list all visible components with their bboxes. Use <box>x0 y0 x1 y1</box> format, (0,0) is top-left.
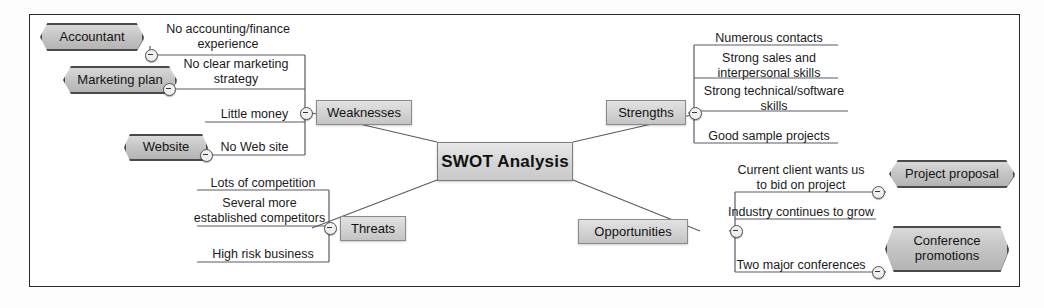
central-node-label: SWOT Analysis <box>441 152 569 172</box>
branch-weaknesses-label: Weaknesses <box>327 105 401 120</box>
collapse-minus-icon-marketing-plan[interactable] <box>163 83 176 96</box>
leaf-opportunity-1[interactable]: Current client wants us to bid on projec… <box>726 163 876 193</box>
branch-opportunities[interactable]: Opportunities <box>578 219 688 244</box>
callout-conference-promotions[interactable]: Conference promotions <box>885 226 1009 272</box>
branch-opportunities-label: Opportunities <box>594 224 671 239</box>
branch-weaknesses[interactable]: Weaknesses <box>316 100 412 125</box>
callout-project-proposal-label: Project proposal <box>905 167 999 182</box>
leaf-opportunity-2[interactable]: Industry continues to grow <box>726 205 876 220</box>
branch-threats-label: Threats <box>351 221 395 236</box>
leaf-threat-3[interactable]: High risk business <box>197 247 329 262</box>
callout-conference-promotions-wrap: Conference promotions <box>885 226 1005 268</box>
collapse-minus-icon-strengths[interactable] <box>689 107 702 120</box>
mindmap-canvas: SWOT Analysis Weaknesses Strengths Threa… <box>0 0 1044 308</box>
leaf-threat-2[interactable]: Several more established competitors <box>190 196 329 226</box>
collapse-minus-icon-opportunities[interactable] <box>730 225 743 238</box>
callout-website[interactable]: Website <box>124 134 208 161</box>
callout-project-proposal[interactable]: Project proposal <box>889 160 1015 188</box>
branch-strengths[interactable]: Strengths <box>606 100 686 125</box>
leaf-threat-1[interactable]: Lots of competition <box>197 176 329 191</box>
collapse-minus-icon-project-proposal[interactable] <box>872 186 885 199</box>
branch-threats[interactable]: Threats <box>340 216 406 241</box>
collapse-minus-icon-threats[interactable] <box>324 222 337 235</box>
leaf-weakness-2[interactable]: No clear marketing strategy <box>168 57 304 87</box>
callout-marketing-plan[interactable]: Marketing plan <box>63 66 177 94</box>
callout-marketing-plan-label: Marketing plan <box>77 73 162 88</box>
callout-project-proposal-wrap: Project proposal <box>889 160 1011 184</box>
collapse-minus-icon-weaknesses[interactable] <box>300 107 313 120</box>
leaf-weakness-3[interactable]: Little money <box>205 107 304 122</box>
callout-marketing-plan-wrap: Marketing plan <box>63 66 173 90</box>
callout-accountant-label: Accountant <box>59 30 124 45</box>
callout-accountant[interactable]: Accountant <box>40 23 144 51</box>
leaf-opportunity-3[interactable]: Two major conferences <box>726 258 876 273</box>
callout-website-label: Website <box>143 140 190 155</box>
collapse-minus-icon-conference-promotions[interactable] <box>872 266 885 279</box>
central-node[interactable]: SWOT Analysis <box>437 142 573 181</box>
leaf-weakness-4[interactable]: No Web site <box>205 140 304 155</box>
collapse-minus-icon-accountant[interactable] <box>145 49 158 62</box>
leaf-strength-3[interactable]: Strong technical/software skills <box>700 84 848 114</box>
callout-conference-promotions-label: Conference promotions <box>913 234 980 263</box>
callout-accountant-wrap: Accountant <box>40 23 140 47</box>
leaf-weakness-1[interactable]: No accounting/finance experience <box>152 22 304 52</box>
leaf-strength-1[interactable]: Numerous contacts <box>700 31 838 46</box>
collapse-minus-icon-website[interactable] <box>200 149 213 162</box>
leaf-strength-2[interactable]: Strong sales and interpersonal skills <box>700 51 838 81</box>
branch-strengths-label: Strengths <box>618 105 674 120</box>
callout-website-wrap: Website <box>124 134 204 157</box>
leaf-strength-4[interactable]: Good sample projects <box>700 129 838 144</box>
